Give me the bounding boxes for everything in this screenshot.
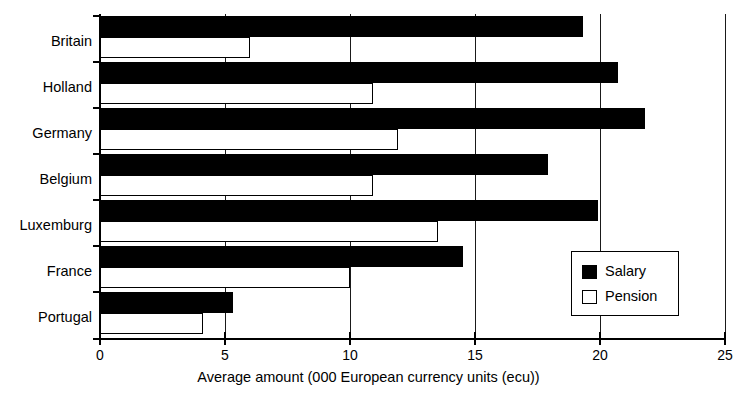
bar-salary-portugal [100, 292, 233, 313]
xtick-label-15: 15 [455, 348, 495, 362]
bar-pension-belgium [100, 175, 373, 196]
category-label-germany: Germany [8, 125, 100, 141]
legend-label-salary: Salary [605, 264, 646, 279]
bar-pension-luxemburg [100, 221, 438, 242]
xtick-label-10: 10 [330, 348, 370, 362]
category-label-portugal: Portugal [8, 309, 100, 325]
legend-swatch-pension-icon [582, 290, 597, 304]
xtick-label-20: 20 [580, 348, 620, 362]
category-axis-labels: Britain Holland Germany Belgium Luxembur… [0, 0, 100, 400]
bar-salary-germany [100, 108, 645, 129]
xtick-mark-25 [724, 332, 726, 345]
bar-salary-britain [100, 16, 583, 37]
xtick-mark-5 [224, 332, 226, 345]
xtick-mark-15 [474, 332, 476, 345]
xtick-mark-20 [599, 332, 601, 345]
bar-pension-holland [100, 83, 373, 104]
bar-pension-germany [100, 129, 398, 150]
xtick-mark-10 [349, 332, 351, 345]
xtick-label-5: 5 [205, 348, 245, 362]
legend-item-salary: Salary [582, 259, 678, 284]
xtick-label-0: 0 [80, 348, 120, 362]
category-label-france: France [8, 263, 100, 279]
x-axis-title: Average amount (000 European currency un… [0, 369, 737, 385]
bar-pension-britain [100, 37, 250, 58]
legend-item-pension: Pension [582, 284, 678, 309]
bar-salary-holland [100, 62, 618, 83]
legend-swatch-salary-icon [582, 265, 597, 279]
legend-label-pension: Pension [605, 289, 657, 304]
bar-pension-france [100, 267, 350, 288]
bar-salary-luxemburg [100, 200, 598, 221]
bar-pension-portugal [100, 313, 203, 334]
xtick-label-25: 25 [705, 348, 737, 362]
xtick-mark-0 [99, 332, 101, 345]
bar-chart: Britain Holland Germany Belgium Luxembur… [0, 0, 737, 400]
category-label-britain: Britain [8, 33, 100, 49]
gridline-25 [725, 14, 726, 339]
category-label-holland: Holland [8, 79, 100, 95]
chart-legend: Salary Pension [571, 251, 679, 316]
bar-salary-belgium [100, 154, 548, 175]
bar-salary-france [100, 246, 463, 267]
category-label-belgium: Belgium [8, 171, 100, 187]
x-axis-line [100, 338, 726, 340]
category-label-luxemburg: Luxemburg [8, 217, 100, 233]
